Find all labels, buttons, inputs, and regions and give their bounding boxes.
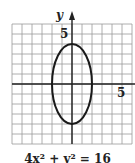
x-tick-label: 5 <box>117 86 125 100</box>
y-tick-label: 5 <box>60 27 68 41</box>
y-axis-label: y <box>56 8 63 22</box>
y-axis-arrow-icon <box>69 11 75 20</box>
equation-caption: 4x² + y² = 16 <box>0 152 135 163</box>
ellipse-plot <box>0 0 135 163</box>
